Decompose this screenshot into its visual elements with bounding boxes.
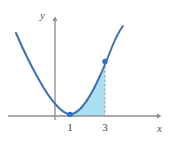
x-axis-label: x [156, 122, 162, 134]
figure-svg: y x 1 3 [0, 0, 172, 144]
shaded-area-under-curve [70, 62, 105, 116]
parabola-figure: y x 1 3 [0, 0, 172, 144]
y-axis-label: y [39, 9, 45, 21]
x-tick-label-1: 1 [67, 121, 73, 133]
parabola-curve [16, 26, 123, 115]
y-axis-arrowhead [52, 17, 57, 22]
vertex-point-marker [67, 112, 72, 117]
upper-point-marker [102, 59, 107, 64]
x-tick-label-3: 3 [102, 121, 108, 133]
x-axis-arrowhead [157, 113, 162, 118]
